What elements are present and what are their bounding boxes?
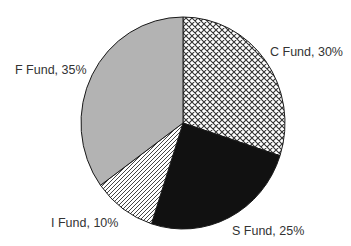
label-s-fund: S Fund, 25% <box>232 224 304 238</box>
pie-chart: C Fund, 30% F Fund, 35% I Fund, 10% S Fu… <box>0 0 351 246</box>
label-c-fund: C Fund, 30% <box>270 45 343 59</box>
label-i-fund: I Fund, 10% <box>51 216 118 230</box>
pie-slices <box>81 17 285 229</box>
label-f-fund: F Fund, 35% <box>15 63 87 77</box>
